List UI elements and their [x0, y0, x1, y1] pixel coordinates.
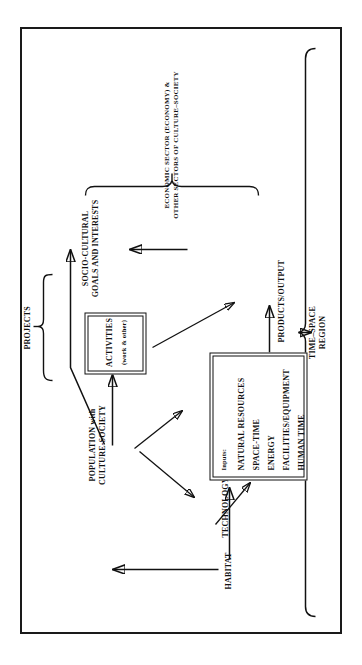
label-time-space-line1: TIME–SPACE [307, 277, 317, 387]
input-item-facilities-equipment: FACILITIES/EQUIPMENT [281, 369, 291, 470]
input-item-human-time: HUMAN TIME [296, 414, 306, 470]
label-population-line2: CULTURE-SOCIETY [97, 387, 107, 502]
diagram-stage: HABITAT POPULATION with CULTURE-SOCIETY … [22, 29, 340, 632]
label-population: POPULATION with CULTURE-SOCIETY [87, 387, 107, 502]
label-habitat: HABITAT [223, 552, 233, 589]
label-projects: PROJECTS [22, 306, 32, 349]
label-time-space-line2: REGION [317, 277, 327, 387]
activities-title: ACTIVITIES [104, 311, 114, 373]
arrow-population-to-technology [139, 451, 194, 497]
input-item-natural-resources: NATURAL RESOURCES [236, 377, 246, 470]
label-socio-cultural: SOCIO-CULTURAL GOALS AND INTERESTS [80, 184, 100, 312]
inputs-heading: Inputs: [219, 448, 227, 470]
label-time-space-region: TIME–SPACE REGION [307, 277, 327, 387]
projects-brace [39, 274, 53, 380]
label-technology: TECHNOLOGY [220, 477, 230, 537]
label-population-line1: POPULATION with [87, 387, 97, 502]
label-economic-line1: ECONOMIC SECTOR (ECONOMY) & [162, 57, 171, 232]
connector-layer [22, 29, 340, 632]
diagram-page: HABITAT POPULATION with CULTURE-SOCIETY … [0, 0, 362, 665]
label-products-output: PRODUCTS/OUTPUT [276, 259, 286, 342]
label-socio-line2: GOALS AND INTERESTS [90, 184, 100, 312]
activities-box: ACTIVITIES (work & other) [84, 312, 146, 374]
label-socio-line1: SOCIO-CULTURAL [80, 184, 90, 312]
label-economic-line2: OTHER SECTORS OF CULTURE–SOCIETY [171, 57, 180, 232]
input-item-energy: ENERGY [266, 435, 276, 470]
label-economic-sector: ECONOMIC SECTOR (ECONOMY) & OTHER SECTOR… [162, 57, 180, 232]
figure-border: HABITAT POPULATION with CULTURE-SOCIETY … [20, 27, 342, 634]
activities-subtitle: (work & other) [119, 311, 127, 373]
arrow-activities-to-products [152, 302, 234, 347]
arrow-population-to-inputs [134, 410, 182, 448]
input-item-space-time: SPACE-TIME [251, 418, 261, 470]
activities-box-inner-rule [87, 315, 143, 371]
inputs-box: Inputs: NATURAL RESOURCES SPACE-TIME ENE… [209, 352, 307, 480]
